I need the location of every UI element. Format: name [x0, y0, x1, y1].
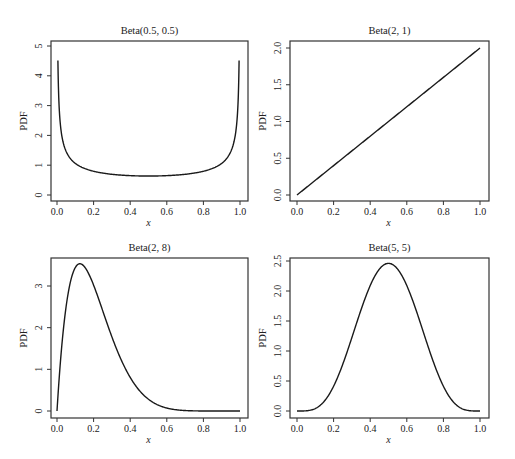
subplot-2: Beta(2, 1)0.00.20.40.60.81.0x0.00.51.01.…: [257, 25, 489, 228]
pdf-curve: [58, 61, 239, 177]
x-axis-label: x: [145, 434, 151, 445]
y-axis-label: PDF: [18, 328, 29, 347]
subplot-title: Beta(5, 5): [369, 242, 411, 254]
x-tick-label: 1.0: [234, 206, 247, 217]
subplot-title: Beta(2, 1): [369, 25, 411, 37]
x-tick-label: 0.8: [197, 423, 210, 434]
x-tick-label: 0.4: [124, 206, 137, 217]
y-axis-label: PDF: [257, 328, 268, 347]
x-tick-label: 0.6: [401, 423, 414, 434]
y-tick-label: 3: [33, 284, 44, 289]
y-tick-label: 2: [33, 325, 44, 330]
y-tick-label: 1: [33, 163, 44, 168]
y-tick-label: 2.5: [272, 255, 283, 268]
y-tick-label: 1.0: [272, 345, 283, 358]
pdf-curve: [297, 263, 480, 411]
x-tick-label: 0.0: [51, 206, 64, 217]
x-tick-label: 0.8: [197, 206, 210, 217]
y-tick-label: 0.0: [272, 405, 283, 418]
x-tick-label: 0.8: [437, 206, 450, 217]
y-tick-label: 2.0: [272, 42, 283, 55]
y-axis: 0.00.51.01.52.02.5PDF: [257, 255, 290, 418]
y-axis: 0123PDF: [18, 284, 51, 414]
y-axis: 012345PDF: [18, 44, 51, 198]
x-tick-label: 0.4: [364, 423, 377, 434]
y-tick-label: 1.5: [272, 315, 283, 328]
subplot-title: Beta(2, 8): [129, 242, 171, 254]
x-tick-label: 0.0: [291, 206, 304, 217]
x-tick-label: 0.0: [51, 423, 64, 434]
x-tick-label: 0.8: [437, 423, 450, 434]
y-tick-label: 2: [33, 133, 44, 138]
plot-frame: [51, 258, 248, 418]
y-tick-label: 0.0: [272, 189, 283, 202]
beta-distribution-figure: Beta(0.5, 0.5)0.00.20.40.60.81.0x012345P…: [0, 0, 515, 459]
x-axis-label: x: [145, 217, 151, 228]
x-axis: 0.00.20.40.60.81.0x: [291, 418, 487, 445]
x-tick-label: 0.6: [161, 423, 174, 434]
x-tick-label: 0.2: [327, 423, 340, 434]
y-tick-label: 0: [33, 409, 44, 414]
plot-frame: [290, 258, 489, 418]
y-tick-label: 2.0: [272, 285, 283, 298]
x-tick-label: 0.0: [291, 423, 304, 434]
y-tick-label: 0: [33, 193, 44, 198]
x-axis: 0.00.20.40.60.81.0x: [51, 418, 247, 445]
x-tick-label: 0.6: [161, 206, 174, 217]
y-tick-label: 4: [33, 73, 44, 78]
y-axis-label: PDF: [18, 111, 29, 130]
x-tick-label: 0.2: [87, 423, 100, 434]
y-tick-label: 1: [33, 367, 44, 372]
x-axis-label: x: [385, 434, 391, 445]
y-tick-label: 5: [33, 44, 44, 49]
x-tick-label: 1.0: [474, 206, 487, 217]
y-axis-label: PDF: [257, 111, 268, 130]
y-tick-label: 3: [33, 103, 44, 108]
pdf-curve: [297, 48, 480, 195]
x-axis: 0.00.20.40.60.81.0x: [51, 201, 247, 228]
subplot-1: Beta(0.5, 0.5)0.00.20.40.60.81.0x012345P…: [18, 25, 248, 228]
x-tick-label: 0.2: [327, 206, 340, 217]
x-tick-label: 1.0: [234, 423, 247, 434]
x-tick-label: 0.4: [124, 423, 137, 434]
y-axis: 0.00.51.01.52.0PDF: [257, 42, 290, 202]
x-tick-label: 0.2: [87, 206, 100, 217]
pdf-curve: [57, 264, 240, 411]
x-tick-label: 0.6: [401, 206, 414, 217]
y-tick-label: 0.5: [272, 152, 283, 165]
subplot-title: Beta(0.5, 0.5): [121, 25, 179, 37]
x-tick-label: 0.4: [364, 206, 377, 217]
y-tick-label: 0.5: [272, 375, 283, 388]
y-tick-label: 1.5: [272, 79, 283, 92]
plot-frame: [51, 41, 248, 201]
x-tick-label: 1.0: [474, 423, 487, 434]
subplot-3: Beta(2, 8)0.00.20.40.60.81.0x0123PDF: [18, 242, 248, 445]
y-tick-label: 1.0: [272, 115, 283, 128]
x-axis-label: x: [385, 217, 391, 228]
subplot-4: Beta(5, 5)0.00.20.40.60.81.0x0.00.51.01.…: [257, 242, 489, 445]
x-axis: 0.00.20.40.60.81.0x: [291, 201, 487, 228]
